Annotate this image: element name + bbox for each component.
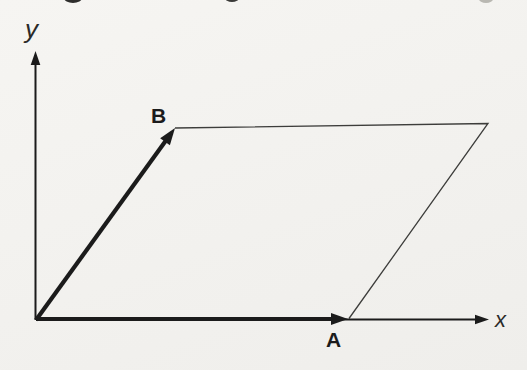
scan-artifact-mark xyxy=(225,0,239,2)
diagram-svg: y x A B xyxy=(0,0,527,370)
scan-artifact-mark xyxy=(479,0,493,3)
scan-artifacts xyxy=(64,0,493,3)
y-axis-arrowhead-icon xyxy=(31,51,41,65)
y-axis-label: y xyxy=(23,14,40,44)
parallelogram-edges xyxy=(175,124,488,319)
x-axis-label: x xyxy=(494,307,507,332)
vector-b-line xyxy=(36,139,167,320)
x-axis-arrowhead-icon xyxy=(475,315,489,325)
scan-artifact-mark xyxy=(64,0,82,3)
scanned-figure-page: y x A B xyxy=(0,0,527,370)
vector-a-arrowhead-icon xyxy=(331,313,348,325)
vector-a-label: A xyxy=(326,328,341,351)
vector-b-label: B xyxy=(151,104,166,127)
